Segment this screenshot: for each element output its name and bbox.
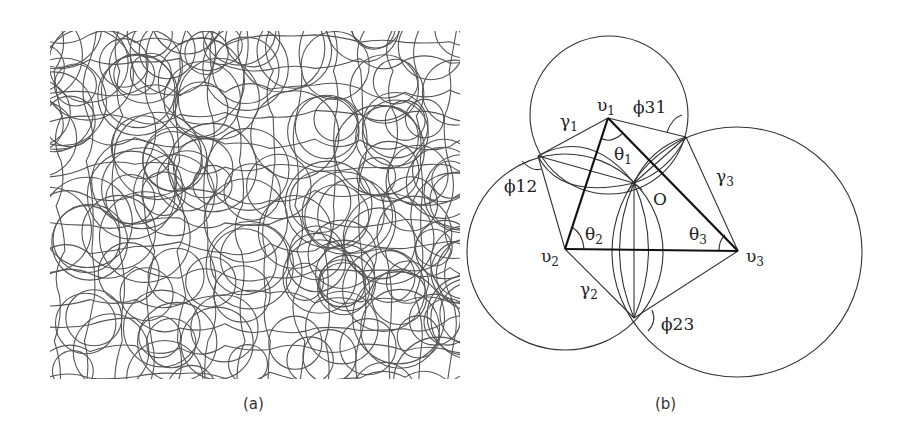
label-gamma2: γ2 <box>580 279 598 302</box>
label-v2: υ2 <box>541 246 559 269</box>
chord-p31-O <box>634 137 686 183</box>
label-theta1: θ1 <box>614 144 632 167</box>
triangle-edge-v2-v3 <box>565 249 738 251</box>
label-theta3: θ3 <box>689 224 707 247</box>
label-v1: υ1 <box>597 95 615 118</box>
angle-arc-phi31 <box>667 115 682 132</box>
label-phi23: ϕ23 <box>661 314 694 334</box>
label-v3: υ3 <box>746 246 764 269</box>
label-gamma1: γ1 <box>560 111 578 134</box>
label-phi31: ϕ31 <box>633 97 666 117</box>
angle-arc-theta2 <box>572 227 584 249</box>
edge-v3-p23 <box>634 251 738 318</box>
edge-v1-p31 <box>608 118 686 137</box>
angle-arc-theta1 <box>601 134 622 140</box>
edge-v2-p23 <box>565 249 634 318</box>
caption-b: (b) <box>655 395 676 413</box>
angle-arc-phi23 <box>648 310 654 331</box>
label-gamma3: γ3 <box>716 166 734 189</box>
label-theta2: θ2 <box>585 224 603 247</box>
label-center-O: O <box>653 189 667 209</box>
panel-b-geometry-diagram: υ1 υ2 υ3 γ1 γ2 γ3 θ1 θ2 θ3 ϕ12 ϕ31 ϕ23 O <box>0 0 902 440</box>
label-phi12: ϕ12 <box>504 176 537 196</box>
